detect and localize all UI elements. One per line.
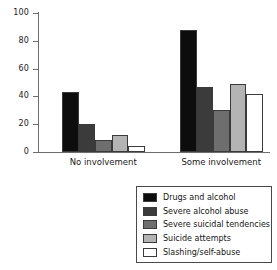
bar	[230, 84, 247, 152]
legend-item: Drugs and alcohol	[143, 191, 266, 205]
y-axis-tick-label: 20	[18, 119, 29, 128]
legend-item: Suicide attempts	[143, 232, 266, 246]
y-axis-tick-label: 0	[24, 147, 29, 156]
legend-item: Severe alcohol abuse	[143, 205, 266, 219]
legend-swatch	[143, 207, 157, 216]
legend-item: Slashing/self-abuse	[143, 245, 266, 259]
legend-swatch	[143, 193, 157, 202]
legend-label: Drugs and alcohol	[163, 193, 236, 202]
x-axis-category-label: No involvement	[70, 157, 137, 167]
y-axis-tick: 0	[33, 152, 38, 153]
x-axis-line	[38, 152, 270, 153]
legend: Drugs and alcoholSevere alcohol abuseSev…	[136, 186, 272, 263]
bar	[62, 92, 79, 152]
y-axis-tick-label: 60	[18, 64, 29, 73]
bar	[112, 135, 129, 152]
legend-label: Severe suicidal tendencies	[163, 220, 270, 229]
plot-area	[38, 13, 270, 152]
bar	[180, 30, 197, 152]
bar	[197, 87, 214, 152]
bar	[79, 124, 96, 152]
bar	[128, 146, 145, 152]
y-axis-tick-label: 100	[13, 8, 29, 17]
bar	[246, 94, 263, 152]
bar-chart-figure: 020406080100 No involvementSome involvem…	[0, 0, 277, 270]
x-axis-category-label: Some involvement	[181, 157, 261, 167]
legend-item: Severe suicidal tendencies	[143, 218, 266, 232]
y-axis-tick-label: 80	[18, 36, 29, 45]
bar	[213, 110, 230, 152]
y-axis-tick-label: 40	[18, 91, 29, 100]
legend-label: Suicide attempts	[163, 234, 231, 243]
legend-swatch	[143, 234, 157, 243]
legend-swatch	[143, 248, 157, 257]
bar	[95, 140, 112, 153]
legend-swatch	[143, 220, 157, 229]
legend-label: Slashing/self-abuse	[163, 248, 240, 257]
legend-label: Severe alcohol abuse	[163, 207, 249, 216]
